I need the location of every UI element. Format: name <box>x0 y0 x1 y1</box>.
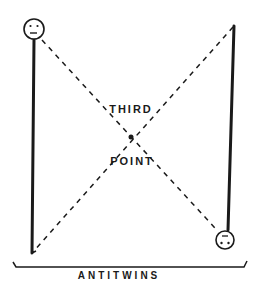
antitwins-bracket <box>13 261 247 267</box>
right-vertical-line <box>228 26 234 230</box>
frowning-face-icon <box>24 19 44 39</box>
diagram-canvas <box>0 0 259 296</box>
dashed-diagonal-down <box>42 40 215 228</box>
point-label: POINT <box>110 155 154 167</box>
third-label: THIRD <box>109 103 153 115</box>
antitwins-label: ANTITWINS <box>78 270 161 281</box>
left-vertical-line <box>32 40 34 253</box>
third-point-dot <box>129 135 134 140</box>
dashed-diagonal-up <box>33 27 233 252</box>
upside-down-face-icon <box>216 231 234 249</box>
